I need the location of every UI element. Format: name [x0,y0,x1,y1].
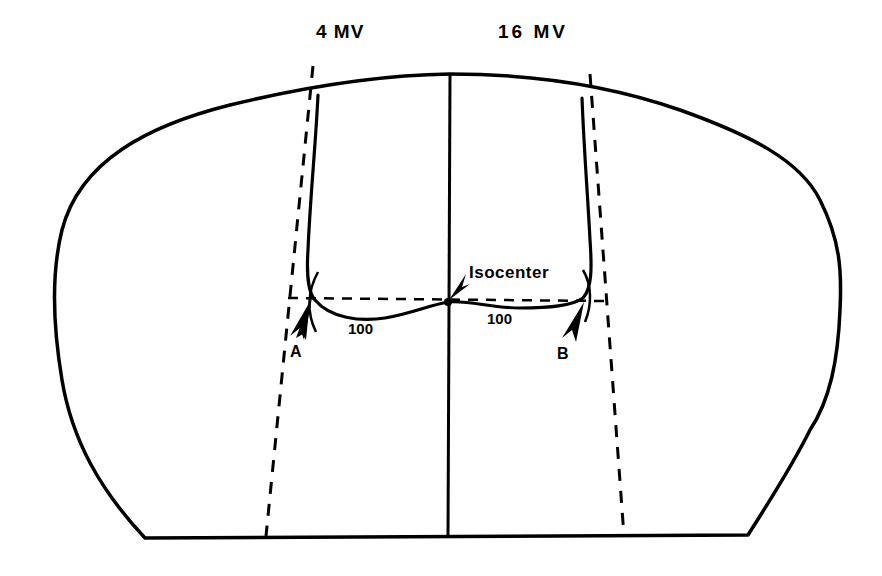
left-beam-edge-dashed [266,66,313,536]
isodose-value-right: 100 [487,311,512,326]
isocenter-dot [444,298,452,306]
beam-label-right: 16 MV [498,22,568,41]
central-axis-line [448,74,450,538]
diagram-svg [0,0,882,576]
isodose-value-left: 100 [348,321,373,336]
beam-label-left: 4 MV [316,22,364,41]
point-label-b: B [557,346,569,362]
isocenter-arrow-icon [449,274,470,300]
isocenter-label: Isocenter [469,264,549,281]
point-label-a: A [290,344,302,360]
diagram-canvas: 4 MV 16 MV Isocenter 100 100 A B [0,0,882,576]
arrow-b-icon [562,302,584,342]
right-beam-edge-dashed [590,74,624,536]
